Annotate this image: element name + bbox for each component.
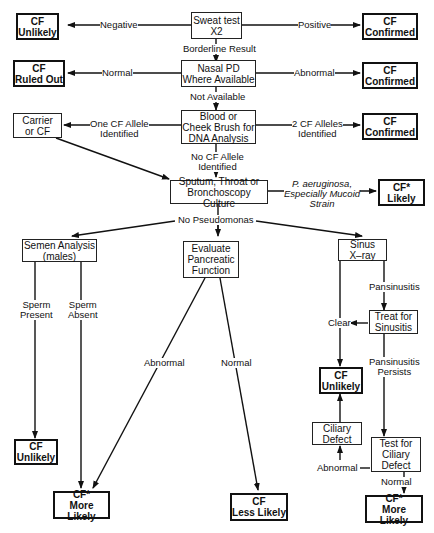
treat-sinusitis-node: Treat for Sinusitis <box>369 310 418 334</box>
cf-less-likely-node: CF Less Likely <box>230 493 288 521</box>
edge-label-sperm-absent: Sperm Absent <box>68 300 98 320</box>
pancreatic-function-node: Evaluate Pancreatic Function <box>183 241 239 278</box>
cf-confirmed-node: CF Confirmed <box>362 13 418 40</box>
edge-label-pseudomonas: P. aeruginosa, Especially Mucoid Strain <box>284 179 360 209</box>
edge-label-abnormal: Abnormal <box>294 68 335 78</box>
cf-more-likely-node: CF* More Likely <box>365 495 423 523</box>
culture-node: Sputum, Throat or Bronchoscopy Culture <box>170 180 268 204</box>
semen-analysis-node: Semen Analysis (males) <box>22 239 97 262</box>
cf-unlikely-node: CF Unlikely <box>319 367 363 394</box>
edge-label-no-pseudomonas: No Pseudomonas <box>178 215 254 225</box>
edge-label-sperm-present: Sperm Present <box>20 300 53 320</box>
edge-label-pansinusitis-persists: Pansinusitis Persists <box>369 357 420 377</box>
cf-confirmed-node: CF Confirmed <box>362 113 418 140</box>
edge-label-normal: Normal <box>381 477 412 487</box>
edge-label-abnormal: Abnormal <box>144 358 185 368</box>
nasal-pd-node: Nasal PD Where Available <box>181 60 256 87</box>
edge-label-one-allele: One CF Allele Identified <box>90 119 149 139</box>
test-ciliary-defect-node: Test for Ciliary Defect <box>371 437 421 472</box>
cf-ruled-out-node: CF Ruled Out <box>13 60 65 87</box>
sweat-test-node: Sweat test X2 <box>191 12 242 39</box>
dna-analysis-node: Blood or Cheek Brush for DNA Analysis <box>181 110 256 144</box>
ciliary-defect-node: Ciliary Defect <box>312 422 362 445</box>
edge-label-not-available: Not Available <box>190 92 245 102</box>
edge-label-two-alleles: 2 CF Alleles Identified <box>292 119 343 139</box>
cf-confirmed-node: CF Confirmed <box>362 62 418 89</box>
edge-label-clear: Clear <box>328 318 351 328</box>
edge-label-no-allele: No CF Allele Identified <box>191 152 244 172</box>
edge-label-pansinusitis: Pansinusitis <box>369 282 420 292</box>
edge-label-positive: Positive <box>298 20 331 30</box>
cf-unlikely-node: CF Unlikely <box>16 13 59 40</box>
edge-label-abnormal: Abnormal <box>317 463 358 473</box>
edge-label-negative: Negative <box>100 20 138 30</box>
cf-likely-node: CF* Likely <box>378 179 425 206</box>
edge-label-normal: Normal <box>102 68 133 78</box>
carrier-node: Carrier or CF <box>13 113 62 138</box>
edge-label-normal: Normal <box>221 358 252 368</box>
cf-diagnosis-flowchart: Sweat test X2 CF Unlikely CF Confirmed N… <box>0 0 434 533</box>
cf-unlikely-node: CF Unlikely <box>14 439 58 465</box>
edge-label-borderline: Borderline Result <box>183 44 256 54</box>
sinus-xray-node: Sinus X–ray <box>338 239 387 261</box>
cf-more-likely-node: CF* More Likely <box>53 491 110 519</box>
